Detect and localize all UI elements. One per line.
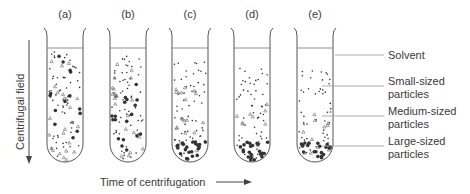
medium-particle: [76, 125, 79, 128]
small-particle: [256, 148, 258, 150]
small-particle: [66, 87, 68, 89]
small-particle: [174, 79, 176, 81]
small-particle: [52, 138, 54, 140]
small-particle: [57, 77, 59, 79]
small-particle: [187, 131, 189, 133]
small-particle: [62, 111, 64, 113]
legend-large-text-1: Large-sized: [388, 135, 445, 148]
small-particle: [322, 79, 324, 81]
medium-particle: [114, 102, 117, 105]
small-particle: [193, 73, 195, 75]
large-particle: [266, 140, 270, 144]
small-particle: [69, 60, 71, 62]
large-particle: [139, 132, 143, 136]
small-particle: [122, 58, 124, 60]
medium-particle: [175, 91, 178, 94]
small-particle: [55, 94, 57, 96]
medium-particle: [302, 130, 305, 133]
tube-label-c: (c): [172, 8, 208, 20]
small-particle: [243, 117, 245, 119]
small-particle: [79, 72, 81, 74]
medium-particle: [73, 150, 76, 153]
small-particle: [190, 85, 192, 87]
large-particle: [312, 150, 316, 154]
small-particle: [257, 79, 259, 81]
small-particle: [138, 74, 140, 76]
small-particle: [253, 83, 255, 85]
small-particle: [181, 133, 183, 135]
small-particle: [174, 64, 176, 66]
small-particle: [51, 53, 53, 55]
medium-particle: [62, 131, 65, 134]
large-particle: [196, 143, 200, 147]
small-particle: [262, 73, 264, 75]
small-particle: [137, 120, 139, 122]
large-particle: [191, 140, 195, 144]
small-particle: [236, 145, 238, 147]
small-particle: [189, 136, 191, 138]
small-particle: [175, 139, 177, 141]
small-particle: [177, 62, 179, 64]
small-particle: [121, 72, 123, 74]
small-particle: [179, 140, 181, 142]
small-particle: [67, 102, 69, 104]
small-particle: [181, 79, 183, 81]
small-particle: [257, 154, 259, 156]
large-particle: [316, 141, 320, 145]
small-particle: [203, 84, 205, 86]
medium-particle: [313, 119, 316, 122]
small-particle: [131, 66, 133, 68]
large-particle: [249, 153, 253, 157]
legend-medium-text-2: particles: [388, 118, 456, 131]
large-particle: [63, 100, 67, 104]
medium-particle: [310, 138, 313, 141]
small-particle: [204, 91, 206, 93]
small-particle: [57, 136, 59, 138]
tube-label-b: (b): [110, 8, 146, 20]
medium-particle: [184, 98, 187, 101]
tube-label-e: (e): [297, 8, 333, 20]
large-particle: [197, 147, 201, 151]
small-particle: [187, 116, 189, 118]
small-particle: [125, 64, 127, 66]
small-particle: [141, 120, 143, 122]
small-particle: [327, 112, 329, 114]
medium-particle: [309, 151, 312, 154]
small-particle: [323, 140, 325, 142]
legend-medium: Medium-sized particles: [388, 105, 456, 131]
medium-particle: [249, 112, 252, 115]
small-particle: [257, 117, 259, 119]
small-particle: [62, 105, 64, 107]
small-particle: [56, 148, 58, 150]
small-particle: [119, 133, 121, 135]
small-particle: [63, 146, 65, 148]
small-particle: [65, 142, 67, 144]
small-particle: [56, 142, 58, 144]
large-particle: [125, 148, 129, 152]
large-particle: [117, 137, 121, 141]
small-particle: [126, 113, 128, 115]
small-particle: [240, 94, 242, 96]
small-particle: [306, 123, 308, 125]
large-particle: [182, 143, 186, 147]
small-particle: [254, 98, 256, 100]
small-particle: [142, 119, 144, 121]
small-particle: [200, 135, 202, 137]
small-particle: [114, 72, 116, 74]
medium-particle: [180, 91, 183, 94]
large-particle: [111, 118, 115, 122]
small-particle: [185, 139, 187, 141]
medium-particle: [120, 154, 123, 157]
large-particle: [253, 158, 257, 162]
small-particle: [52, 78, 54, 80]
large-particle: [255, 142, 259, 146]
medium-particle: [264, 109, 267, 112]
small-particle: [262, 106, 264, 108]
large-particle: [114, 114, 118, 118]
small-particle: [327, 138, 329, 140]
small-particle: [73, 66, 75, 68]
small-particle: [119, 121, 121, 123]
y-axis-text: Centrifugal field: [14, 74, 26, 150]
medium-particle: [184, 131, 187, 134]
medium-particle: [235, 115, 238, 118]
